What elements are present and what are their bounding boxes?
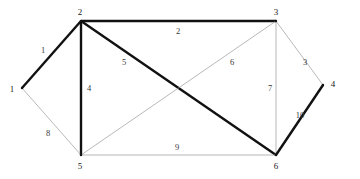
node-label-6: 6 bbox=[274, 162, 279, 171]
node-label-1: 1 bbox=[10, 85, 15, 94]
edge-weight-label-2-6: 5 bbox=[122, 58, 126, 67]
edge-weight-label-4-6: 10 bbox=[296, 111, 305, 120]
graph-edge-3-4 bbox=[276, 21, 323, 85]
graph-node-5 bbox=[80, 154, 82, 156]
graph-node-4 bbox=[322, 84, 324, 86]
edge-weight-label-2-3: 2 bbox=[176, 27, 180, 36]
graph-edge-1-5 bbox=[22, 88, 81, 155]
node-label-4: 4 bbox=[331, 80, 336, 89]
graph-edge-1-2 bbox=[22, 21, 81, 88]
nodes-layer bbox=[21, 20, 324, 156]
edge-weight-label-5-6: 9 bbox=[175, 143, 179, 152]
graph-node-6 bbox=[275, 154, 277, 156]
edge-weight-label-1-5: 8 bbox=[46, 129, 50, 138]
edge-weight-label-3-4: 3 bbox=[303, 58, 307, 67]
node-label-3: 3 bbox=[274, 8, 279, 17]
graph-edge-4-6 bbox=[276, 85, 323, 155]
edge-weight-label-2-5: 4 bbox=[87, 84, 91, 93]
edges-layer bbox=[22, 21, 323, 155]
edge-weight-label-3-6: 7 bbox=[268, 84, 272, 93]
graph-node-1 bbox=[21, 87, 23, 89]
edge-weight-label-1-2: 1 bbox=[41, 46, 45, 55]
graph-node-2 bbox=[80, 20, 82, 22]
edge-weight-label-3-5: 6 bbox=[230, 58, 234, 67]
node-label-2: 2 bbox=[78, 8, 83, 17]
graph-node-3 bbox=[275, 20, 277, 22]
node-label-5: 5 bbox=[78, 162, 83, 171]
graph-figure: 12345678910 123456 bbox=[0, 0, 360, 179]
